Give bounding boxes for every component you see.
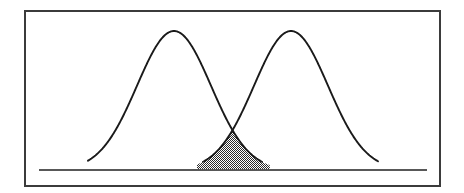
distribution-figure bbox=[0, 0, 464, 193]
overlap-shaded-region bbox=[197, 130, 270, 170]
figure-container bbox=[0, 0, 464, 193]
